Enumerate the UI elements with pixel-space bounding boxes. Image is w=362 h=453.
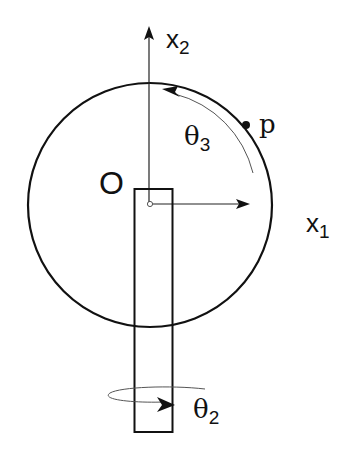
theta3-label: θ3 — [184, 121, 210, 155]
theta3-arrowhead — [162, 86, 180, 97]
origin-label: O — [99, 165, 124, 201]
rod-rectangle — [135, 189, 173, 432]
x1-label: x1 — [306, 208, 330, 242]
x2-label: x2 — [166, 24, 190, 58]
point-p-label: p — [259, 109, 276, 139]
origin-marker — [147, 201, 152, 206]
theta2-label: θ2 — [193, 394, 219, 428]
theta2-ellipse — [108, 387, 205, 402]
diagram-canvas: x2 x1 O p θ3 θ2 — [0, 0, 362, 453]
point-p-dot — [242, 121, 250, 129]
